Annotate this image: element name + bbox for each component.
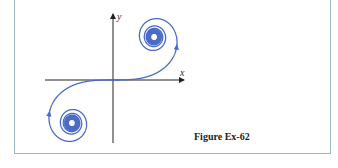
curve-direction-arrow <box>46 110 51 116</box>
y-axis-label: y <box>117 11 121 22</box>
x-axis-label: x <box>180 67 184 78</box>
figure-diagram <box>0 0 338 168</box>
figure-caption: Figure Ex-62 <box>194 131 250 142</box>
